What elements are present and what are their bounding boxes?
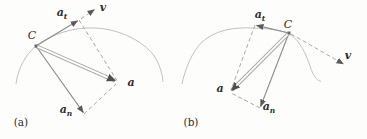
velocity-vector xyxy=(81,10,95,19)
figure-acceleration-components: C at v a an (a) at C v a an (b) xyxy=(0,0,367,139)
normal-accel-vector xyxy=(261,33,289,107)
point-c-label: C xyxy=(28,29,37,42)
resultant-accel-vector-core xyxy=(236,34,288,86)
point-c-label: C xyxy=(284,18,293,31)
acceleration-label: a xyxy=(216,82,223,95)
tangential-accel-label: at xyxy=(255,8,266,23)
panel-caption: (b) xyxy=(184,116,199,128)
tangential-accel-label: at xyxy=(57,6,68,21)
point-c-marker xyxy=(35,45,38,48)
panel-caption: (a) xyxy=(14,116,28,128)
trajectory-curve xyxy=(182,28,321,84)
panel-b: at C v a an (b) xyxy=(182,8,352,128)
point-c-marker xyxy=(288,32,291,35)
velocity-vector xyxy=(291,34,344,64)
normal-accel-label: an xyxy=(60,103,73,118)
figure-canvas: C at v a an (a) at C v a an (b) xyxy=(0,0,367,139)
velocity-label: v xyxy=(100,1,107,14)
trajectory-curve xyxy=(16,28,163,84)
tangential-accel-vector xyxy=(36,21,78,46)
parallelogram-edge-normal xyxy=(232,94,260,109)
panel-a: C at v a an (a) xyxy=(14,1,163,128)
velocity-label: v xyxy=(345,49,352,62)
acceleration-label: a xyxy=(127,76,134,89)
normal-accel-label: an xyxy=(263,100,276,115)
parallelogram-edge-normal xyxy=(84,84,116,114)
